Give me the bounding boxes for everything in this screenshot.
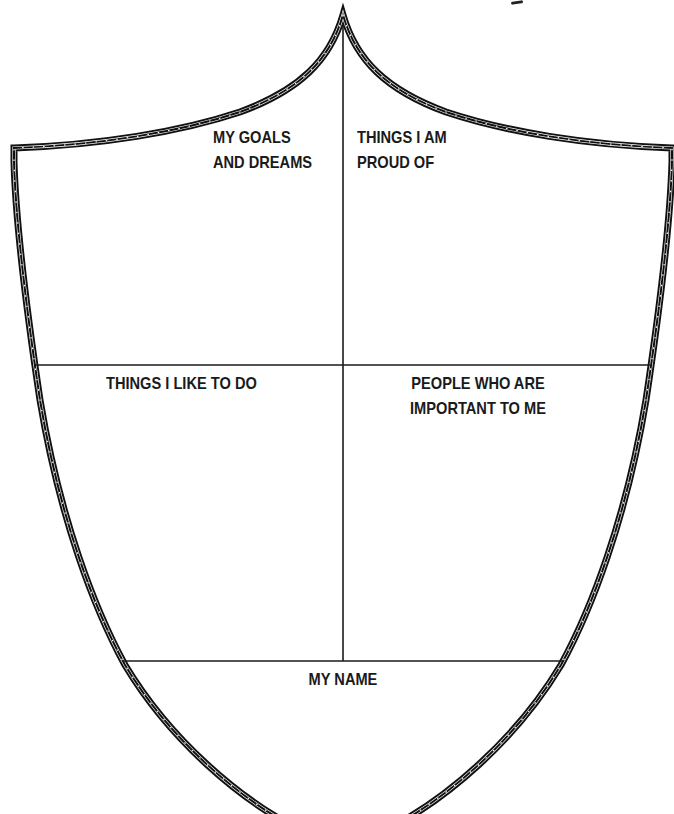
goals-heading-line-1: MY GOALS [213,125,312,150]
name-heading: MY NAME [291,667,394,692]
proud-heading-line-2: PROUD OF [357,150,447,175]
likes-writing-area[interactable] [40,368,340,658]
people-heading: PEOPLE WHO ARE IMPORTANT TO ME [397,371,559,421]
likes-heading-line-1: THINGS I LIKE TO DO [106,371,257,396]
proud-heading-line-1: THINGS I AM [357,125,447,150]
goals-heading-line-2: AND DREAMS [213,150,312,175]
proud-heading: THINGS I AM PROUD OF [357,125,447,175]
likes-heading: THINGS I LIKE TO DO [106,371,257,396]
people-heading-line-2: IMPORTANT TO ME [397,396,559,421]
people-heading-line-1: PEOPLE WHO ARE [397,371,559,396]
name-heading-line-1: MY NAME [291,667,394,692]
goals-heading: MY GOALS AND DREAMS [213,125,312,175]
